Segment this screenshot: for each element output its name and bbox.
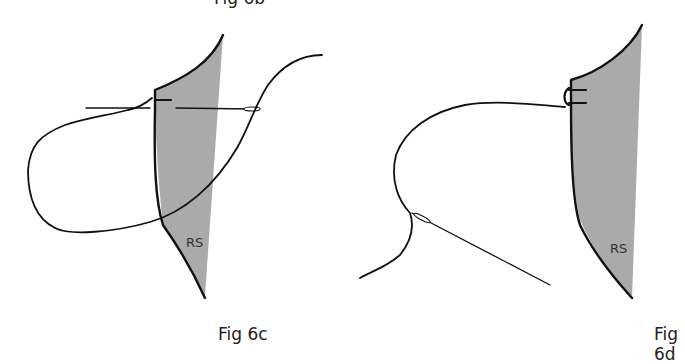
figure-caption-6c: Fig 6c [218,324,268,344]
figure-6d: RS [360,25,642,298]
fabric-label-rs-6c: RS [186,235,203,250]
needle-eye-6c [244,107,260,111]
needle-6d [412,213,550,285]
figure-caption-6d: Fig 6d [654,324,685,364]
fabric-label-rs-6d: RS [610,241,627,256]
figure-6c: RS [28,35,322,298]
thread-6d [360,103,565,278]
needle-eye-6d [413,212,431,224]
fabric-piece-6d [571,25,642,298]
